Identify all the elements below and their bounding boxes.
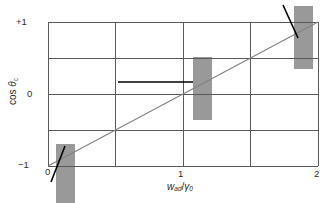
y-axis-title: cos θc [7, 62, 18, 122]
y-axis-title-prefix: cos [7, 87, 18, 105]
x-axis-title: wad/γ0 [140, 181, 220, 192]
x-tick-label-zero: 0 [45, 167, 50, 177]
x-tick-label-two: 2 [314, 169, 319, 179]
data-boxes [56, 6, 313, 203]
x-tick-label-one: 1 [178, 169, 183, 179]
data-box-2 [193, 57, 212, 120]
x-axis-title-denominator-subscript: 0 [189, 185, 193, 192]
data-box-3 [294, 6, 313, 69]
y-tick-label-minus-one: −1 [18, 160, 29, 170]
y-tick-label-plus-one: +1 [16, 17, 27, 27]
y-axis-title-symbol: θ [7, 81, 18, 86]
y-tick-label-zero: 0 [27, 89, 32, 99]
chart-figure: +1 0 −1 0 1 2 cos θc wad/γ0 [0, 0, 336, 203]
plot-area [0, 0, 336, 203]
y-axis-title-subscript: c [12, 78, 19, 81]
x-axis-title-subscript: ad [174, 185, 181, 192]
